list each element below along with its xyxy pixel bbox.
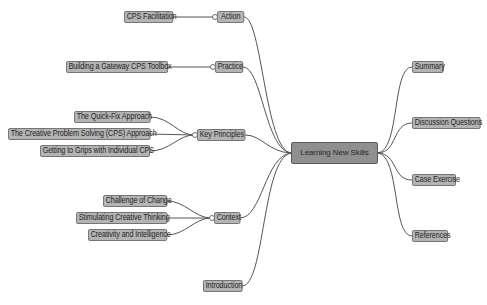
leaf-node-challenge-of-change[interactable]: Challenge of Change (103, 195, 167, 207)
mindmap-canvas: Learning New Skills Action Practice Key … (0, 0, 487, 305)
collapse-toggle-key-principles[interactable] (192, 132, 198, 138)
leaf-node-getting-to-grips[interactable]: Getting to Grips with Individual CPS (40, 145, 150, 157)
leaf-node-creative-problem-solving-approach[interactable]: The Creative Problem Solving (CPS) Appro… (8, 128, 151, 140)
leaf-node-cps-facilitation[interactable]: CPS Facilitation (124, 11, 173, 23)
collapse-toggle-practice[interactable] (210, 64, 216, 70)
branch-node-key-principles[interactable]: Key Principles (197, 129, 245, 141)
branch-node-practice[interactable]: Practice (215, 61, 243, 73)
root-node-learning-new-skills[interactable]: Learning New Skills (291, 142, 378, 164)
collapse-toggle-context[interactable] (209, 215, 215, 221)
branch-node-action[interactable]: Action (217, 11, 244, 23)
leaf-node-quick-fix-approach[interactable]: The Quick-Fix Approach (74, 111, 151, 123)
leaf-node-creativity-and-intelligence[interactable]: Creativity and Intelligence (88, 229, 167, 241)
collapse-toggle-action[interactable] (212, 14, 218, 20)
branch-node-references[interactable]: References (412, 230, 448, 242)
branch-node-context[interactable]: Context (214, 212, 240, 224)
branch-node-summary[interactable]: Summary (412, 61, 444, 73)
leaf-node-building-gateway-cps-toolbox[interactable]: Building a Gateway CPS Toolbox (66, 61, 168, 73)
leaf-node-stimulating-creative-thinking[interactable]: Stimulating Creative Thinking (76, 212, 168, 224)
branch-node-introduction[interactable]: Introduction (203, 280, 243, 292)
branch-node-discussion-questions[interactable]: Discussion Questions (412, 117, 481, 129)
branch-node-case-exercise[interactable]: Case Exercise (412, 174, 456, 186)
